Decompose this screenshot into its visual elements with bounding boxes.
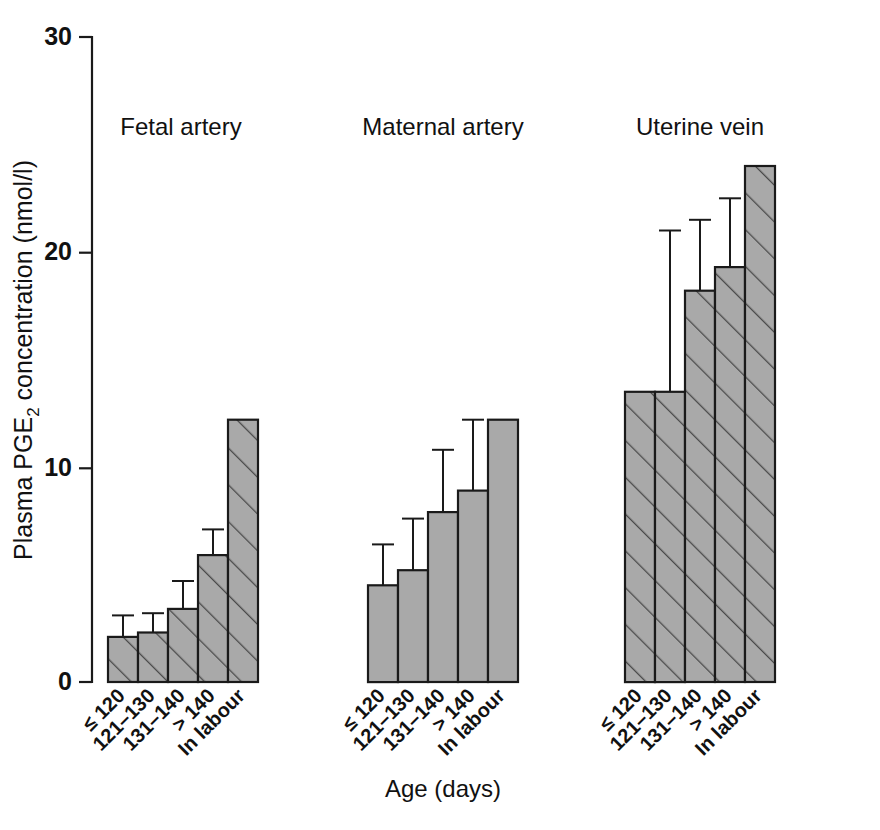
y-axis-title-pre: Plasma PGE (9, 417, 37, 560)
bar-fetal-131-140[interactable] (168, 609, 198, 682)
bar-fetal-121-130[interactable] (138, 633, 168, 683)
figure-container: 30 20 10 0 Plasma PGE2 concentration (nm… (0, 0, 880, 830)
panel-title-uterine-vein: Uterine vein (636, 113, 764, 140)
y-axis-title-post: concentration (nmol/l) (9, 160, 37, 407)
bar-maternal-131-140[interactable] (428, 512, 458, 682)
bar-uterine-le120[interactable] (625, 392, 655, 682)
bar-maternal-in-labour[interactable] (488, 420, 518, 682)
bar-uterine-in-labour[interactable] (745, 166, 775, 682)
bar-fetal-in-labour[interactable] (228, 420, 258, 682)
panel-title-maternal-artery: Maternal artery (362, 113, 523, 140)
y-tick-label-10: 10 (44, 453, 72, 481)
panel-title-fetal-artery: Fetal artery (120, 113, 241, 140)
y-tick-label-0: 0 (58, 667, 72, 695)
bar-chart: 30 20 10 0 Plasma PGE2 concentration (nm… (0, 0, 880, 830)
bar-uterine-gt140[interactable] (715, 267, 745, 682)
bar-uterine-131-140[interactable] (685, 291, 715, 682)
y-tick-label-30: 30 (44, 22, 72, 50)
bar-fetal-le120[interactable] (108, 637, 138, 682)
bar-maternal-le120[interactable] (368, 585, 398, 682)
bar-maternal-gt140[interactable] (458, 491, 488, 682)
bar-fetal-gt140[interactable] (198, 555, 228, 682)
y-tick-label-20: 20 (44, 237, 72, 265)
x-axis-title: Age (days) (385, 775, 501, 802)
bar-maternal-121-130[interactable] (398, 570, 428, 682)
y-axis-title-subscript: 2 (24, 407, 43, 416)
bar-uterine-121-130[interactable] (655, 392, 685, 682)
